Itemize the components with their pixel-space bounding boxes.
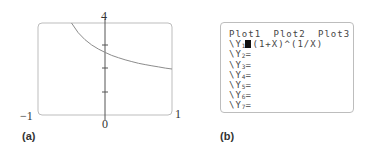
origin-label: 0 (102, 118, 108, 130)
plot3-toggle[interactable]: Plot3 (318, 29, 350, 39)
graph-panel-a: 4 −1 1 0 (a) (0, 0, 185, 153)
equation-label: \Y (229, 60, 242, 70)
equation-label: \Y (229, 49, 242, 59)
equals-sign: = (245, 80, 251, 90)
cursor-block-icon (245, 40, 251, 48)
calculator-y-editor-screen: Plot1 Plot2 Plot3 \Y1(1+X)^(1/X)\Y2=\Y3=… (220, 22, 354, 113)
equation-row-y2[interactable]: \Y2= (229, 49, 350, 59)
equation-row-y3[interactable]: \Y3= (229, 60, 350, 70)
caption-a: (a) (22, 130, 35, 142)
plot1-toggle[interactable]: Plot1 (229, 29, 261, 39)
equation-label: \Y (229, 70, 242, 80)
equation-row-y6[interactable]: \Y6= (229, 90, 350, 100)
equation-row-y7[interactable]: \Y7= (229, 100, 350, 110)
equation-label: \Y (229, 90, 242, 100)
equation-row-y5[interactable]: \Y5= (229, 80, 350, 90)
y-max-label: 4 (101, 10, 107, 22)
equals-sign: = (245, 49, 251, 59)
equals-sign: = (245, 60, 251, 70)
function-curve (72, 23, 173, 69)
x-max-label: 1 (175, 108, 181, 120)
equals-sign: = (245, 90, 251, 100)
equation-label: \Y (229, 80, 242, 90)
plot-header-row: Plot1 Plot2 Plot3 (229, 29, 350, 39)
equation-row-y1[interactable]: \Y1(1+X)^(1/X) (229, 39, 350, 49)
equals-sign: = (245, 70, 251, 80)
caption-b: (b) (220, 130, 234, 142)
x-min-label: −1 (20, 110, 33, 122)
equation-list: \Y1(1+X)^(1/X)\Y2=\Y3=\Y4=\Y5=\Y6=\Y7= (229, 39, 350, 110)
y-editor-lines: Plot1 Plot2 Plot3 \Y1(1+X)^(1/X)\Y2=\Y3=… (229, 29, 350, 111)
equation-label: \Y (229, 39, 242, 49)
equation-row-y4[interactable]: \Y4= (229, 70, 350, 80)
equals-sign: = (245, 100, 251, 110)
equation-expression-input[interactable]: (1+X)^(1/X) (252, 39, 323, 49)
equation-label: \Y (229, 100, 242, 110)
plot2-toggle[interactable]: Plot2 (274, 29, 306, 39)
